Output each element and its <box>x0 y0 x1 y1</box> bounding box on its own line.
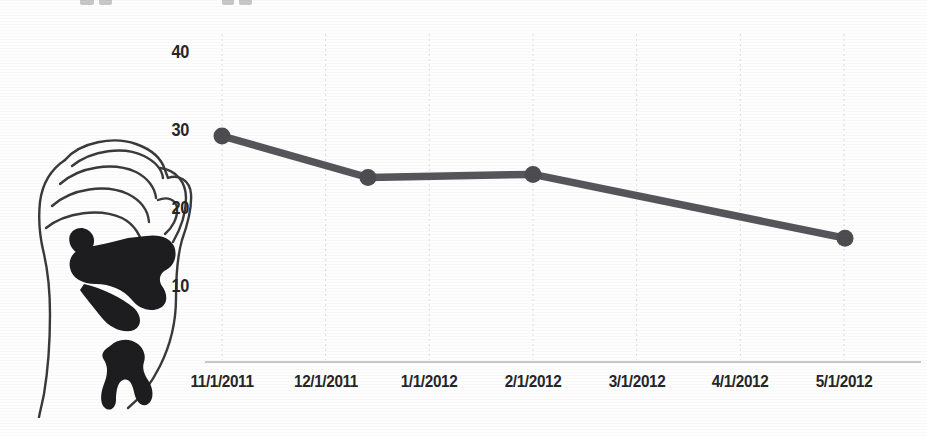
x-tick-label-4: 2/1/2012 <box>483 372 584 392</box>
y-tick-label-40: 40 <box>149 41 189 63</box>
x-tick-label-2: 12/1/2011 <box>272 372 380 392</box>
x-tick-label-1: 11/1/2011 <box>168 372 276 392</box>
y-tick-label-30: 30 <box>149 119 189 141</box>
data-line <box>222 136 845 238</box>
y-tick-label-10: 10 <box>149 275 189 297</box>
x-tick-label-5: 3/1/2012 <box>587 372 688 392</box>
data-point <box>837 230 854 247</box>
y-tick-label-20: 20 <box>149 197 189 219</box>
line-chart: 40 30 20 10 11/1/2011 12/1/2011 1/1/2012… <box>0 0 927 436</box>
data-point <box>360 169 377 186</box>
data-point <box>525 166 542 183</box>
gridlines <box>222 34 844 360</box>
x-tick-label-6: 4/1/2012 <box>690 372 791 392</box>
chart-plot-area <box>0 0 927 436</box>
data-point <box>214 128 231 145</box>
x-tick-label-3: 1/1/2012 <box>379 372 480 392</box>
x-tick-label-7: 5/1/2012 <box>794 372 895 392</box>
